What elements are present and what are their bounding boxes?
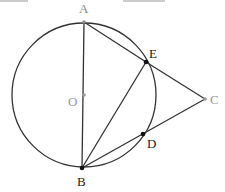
point-b — [80, 166, 85, 171]
label-e: E — [149, 46, 157, 61]
point-c — [203, 97, 207, 101]
point-o — [82, 93, 86, 97]
label-a: A — [79, 1, 89, 16]
geometry-diagram: A O E C D B — [0, 0, 225, 192]
point-a — [82, 20, 86, 24]
segment-ae — [84, 22, 146, 62]
segment-be — [82, 62, 146, 168]
point-e — [144, 60, 149, 65]
label-o: O — [68, 94, 77, 109]
label-d: D — [147, 136, 156, 151]
label-b: B — [77, 174, 86, 189]
label-c: C — [210, 92, 219, 107]
point-d — [141, 132, 146, 137]
